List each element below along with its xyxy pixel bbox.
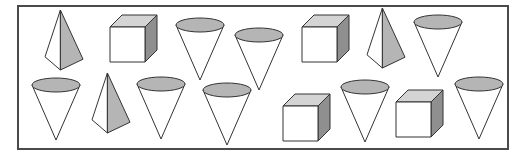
figure-canvas (0, 0, 516, 163)
cube-shape (396, 90, 443, 137)
cone-shape (455, 77, 503, 139)
cone-shape (341, 80, 389, 142)
cone-shape (176, 18, 224, 80)
cube-shape (110, 15, 157, 62)
cone-shape (32, 78, 80, 140)
cube-shape (283, 94, 330, 141)
shapes-layer (0, 0, 516, 163)
pyramid-shape (45, 10, 83, 70)
pyramid-shape (367, 8, 405, 68)
cone-shape (414, 15, 462, 77)
cone-shape (203, 83, 251, 145)
cone-shape (137, 77, 185, 139)
cube-shape (302, 15, 349, 62)
cone-shape (235, 28, 283, 90)
pyramid-shape (92, 73, 130, 133)
